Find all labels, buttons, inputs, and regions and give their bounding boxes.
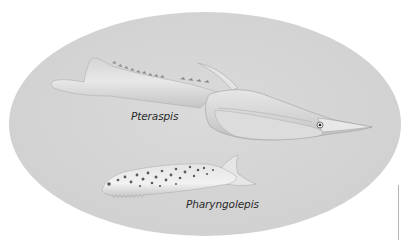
pteraspis-label: Pteraspis — [131, 110, 178, 122]
pharyngolepis-label: Pharyngolepis — [186, 198, 259, 210]
edge-divider-line — [398, 185, 399, 240]
illustration-canvas: Pteraspis Pharyngolepis — [0, 0, 405, 244]
pteraspis-pupil — [319, 124, 322, 127]
